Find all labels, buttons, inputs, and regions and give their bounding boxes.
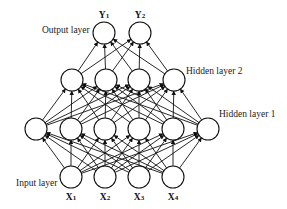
neural-network-diagram: X1X2X3X4Y1Y2 Output layer Hidden layer 2… xyxy=(0,0,287,209)
hidden2-node-2 xyxy=(95,69,117,91)
input-node-3 xyxy=(128,166,150,188)
hidden1-node-2 xyxy=(60,118,82,140)
connection-arrow xyxy=(105,44,106,69)
hidden2-node-1 xyxy=(61,69,83,91)
connection-arrow xyxy=(116,85,198,124)
output-node-2 xyxy=(129,22,151,44)
hidden-layer-1-label: Hidden layer 1 xyxy=(219,109,276,119)
connection-arrow xyxy=(146,42,167,71)
connection-edges xyxy=(43,39,202,173)
connection-arrow xyxy=(180,138,202,168)
hidden1-node-5 xyxy=(162,118,184,140)
input-node-1 xyxy=(60,166,82,188)
hidden1-node-1 xyxy=(25,118,47,140)
hidden-layer-2-label: Hidden layer 2 xyxy=(186,66,243,76)
hidden1-node-3 xyxy=(94,118,116,140)
input-node-4 xyxy=(162,166,184,188)
connection-arrow xyxy=(46,134,129,173)
connection-arrow xyxy=(78,42,98,71)
output-node-label-1: Y1 xyxy=(99,10,110,20)
hidden1-node-6 xyxy=(197,118,219,140)
output-layer-label: Output layer xyxy=(42,25,91,35)
input-layer-label: Input layer xyxy=(16,178,58,188)
connection-arrow xyxy=(43,89,66,120)
connection-arrow xyxy=(71,91,72,118)
input-node-label-4: X4 xyxy=(168,192,179,202)
input-node-label-1: X1 xyxy=(66,192,77,202)
hidden2-node-4 xyxy=(163,69,185,91)
network-nodes: X1X2X3X4Y1Y2 xyxy=(25,10,219,202)
hidden1-node-4 xyxy=(128,118,150,140)
input-node-2 xyxy=(94,166,116,188)
input-node-label-3: X3 xyxy=(134,192,145,202)
output-node-1 xyxy=(93,22,115,44)
output-node-label-2: Y2 xyxy=(135,10,146,20)
input-node-label-2: X2 xyxy=(100,192,111,202)
connection-arrow xyxy=(46,85,129,125)
connection-arrow xyxy=(43,138,65,168)
hidden2-node-3 xyxy=(128,69,150,91)
connection-arrow xyxy=(180,89,201,120)
